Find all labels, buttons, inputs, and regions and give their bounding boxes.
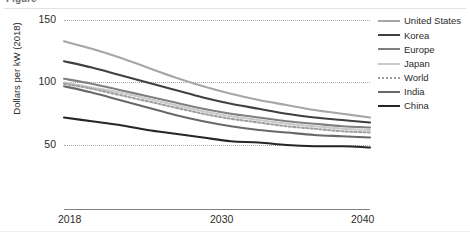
legend-swatch-icon <box>378 87 400 97</box>
legend-item-label: Korea <box>404 31 429 41</box>
x-tick-2040: 2040 <box>351 213 374 225</box>
x-tick-2030: 2030 <box>210 213 233 225</box>
legend-swatch-icon <box>378 30 400 40</box>
chart-legend: United StatesKoreaEuropeJapanWorldIndiaC… <box>378 14 470 113</box>
legend-item-label: Japan <box>404 59 430 69</box>
legend-swatch-icon <box>378 16 400 26</box>
legend-item-korea[interactable]: Korea <box>378 28 470 42</box>
series-line-china <box>64 118 370 148</box>
legend-item-japan[interactable]: Japan <box>378 57 470 71</box>
legend-item-label: India <box>404 87 425 97</box>
x-tick-2018: 2018 <box>58 213 81 225</box>
legend-item-united-states[interactable]: United States <box>378 14 470 28</box>
legend-swatch-icon <box>378 101 400 111</box>
legend-swatch-icon <box>378 59 400 69</box>
legend-item-world[interactable]: World <box>378 71 470 85</box>
legend-item-label: China <box>404 101 429 111</box>
series-line-europe <box>64 79 370 128</box>
legend-item-europe[interactable]: Europe <box>378 42 470 56</box>
x-axis-line <box>64 209 370 210</box>
legend-item-india[interactable]: India <box>378 85 470 99</box>
series-line-united-states <box>64 41 370 117</box>
legend-item-china[interactable]: China <box>378 99 470 113</box>
legend-item-label: World <box>404 73 429 83</box>
legend-swatch-icon <box>378 44 400 54</box>
bottom-divider <box>0 231 470 232</box>
legend-item-label: United States <box>404 16 461 26</box>
legend-swatch-icon <box>378 73 400 83</box>
legend-item-label: Europe <box>404 45 435 55</box>
chart-figure: Figure Dollars per kW (2018) 150 100 50 … <box>0 0 470 235</box>
